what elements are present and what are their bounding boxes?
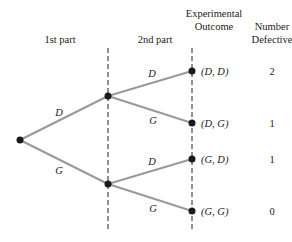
branch-label-G-G: G xyxy=(149,203,157,214)
leaf-node-GD xyxy=(189,156,196,163)
outcome-label-DG: (D, G) xyxy=(201,118,229,130)
branch-label-D-G: G xyxy=(149,115,157,126)
outcome-label-GG: (G, G) xyxy=(201,206,229,218)
leaf-node-DD xyxy=(189,68,196,75)
branch-label-root-G: G xyxy=(55,165,63,176)
header-outcome-line2: Outcome xyxy=(195,21,234,32)
branch-label-root-D: D xyxy=(54,107,63,118)
defective-count-GD: 1 xyxy=(269,154,274,165)
outcome-label-GD: (G, D) xyxy=(201,154,229,166)
defective-count-DD: 2 xyxy=(269,66,274,77)
header-defective-line2: Defective xyxy=(252,34,292,45)
header-first-part: 1st part xyxy=(44,34,75,45)
leaf-node-GG xyxy=(189,208,196,215)
branch-label-G-D: D xyxy=(147,156,156,167)
branch-label-D-D: D xyxy=(147,68,156,79)
header-outcome-line1: Experimental xyxy=(186,8,243,19)
node-G xyxy=(105,181,112,188)
edge-root-to-D xyxy=(20,96,108,140)
edge-root-to-G xyxy=(20,140,108,184)
header-second-part: 2nd part xyxy=(138,34,173,45)
node-D xyxy=(105,93,112,100)
defective-count-DG: 1 xyxy=(269,118,274,129)
defective-count-GG: 0 xyxy=(269,206,274,217)
tree-diagram: 1st part 2nd part Experimental Outcome N… xyxy=(0,0,292,242)
leaf-node-DG xyxy=(189,120,196,127)
outcome-label-DD: (D, D) xyxy=(201,66,229,78)
root-node xyxy=(17,137,24,144)
header-defective-line1: Number xyxy=(255,21,290,32)
